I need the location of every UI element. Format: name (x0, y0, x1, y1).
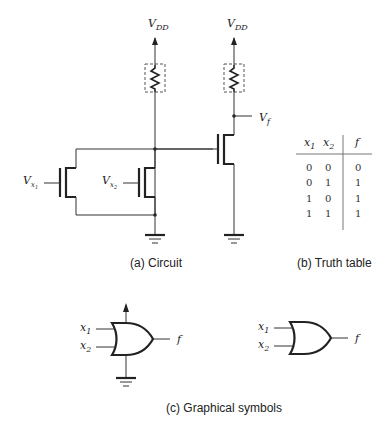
circuit: VDD VDD Vf (23, 17, 272, 270)
svg-text:0: 0 (355, 162, 361, 173)
svg-text:1: 1 (355, 208, 361, 219)
header-x2: x2 (323, 136, 334, 151)
arrow-up-icon (123, 303, 129, 312)
ground-icon (116, 378, 136, 386)
figure: VDD VDD Vf (0, 0, 388, 430)
vdd-left-label: VDD (148, 17, 169, 32)
vdd-right-label: VDD (227, 17, 248, 32)
svg-text:1: 1 (355, 177, 361, 188)
table-row: 1 0 1 (306, 193, 361, 204)
transistor-output (155, 134, 244, 243)
output-vf-label: Vf (259, 111, 272, 126)
svg-text:1: 1 (325, 177, 331, 188)
or-gate-with-power: x1 x2 f (80, 303, 183, 386)
ground-icon (145, 235, 165, 243)
table-row: 0 0 0 (306, 162, 361, 173)
svg-text:0: 0 (306, 162, 312, 173)
gate2-output-f: f (354, 332, 361, 345)
header-f: f (354, 136, 361, 149)
input-vx1-label: Vx1 (23, 174, 38, 190)
gate2-input-x2: x2 (258, 338, 269, 353)
svg-text:0: 0 (306, 177, 312, 188)
svg-text:0: 0 (325, 162, 331, 173)
resistor-icon (230, 65, 238, 92)
or-gate-icon (290, 322, 331, 354)
vdd-right: VDD Vf (224, 17, 272, 135)
ground-icon (224, 235, 244, 243)
caption-circuit: (a) Circuit (130, 256, 183, 270)
gate2-input-x1: x1 (258, 320, 269, 335)
vdd-left: VDD (145, 17, 169, 215)
truth-table: x1 x2 f 0 0 0 0 1 1 1 0 1 1 1 1 (b) Trut… (296, 135, 372, 270)
transistor-x2: Vx2 (102, 149, 155, 215)
svg-text:1: 1 (306, 208, 312, 219)
diagram-canvas: VDD VDD Vf (0, 0, 388, 430)
gate1-input-x2: x2 (80, 339, 91, 354)
svg-text:1: 1 (355, 193, 361, 204)
svg-text:1: 1 (306, 193, 312, 204)
caption-symbols: (c) Graphical symbols (166, 401, 282, 415)
header-x1: x1 (304, 136, 315, 151)
or-gate: x1 x2 f (258, 320, 361, 354)
input-vx2-label: Vx2 (102, 174, 117, 190)
gate1-input-x1: x1 (80, 321, 91, 336)
arrow-up-icon (152, 37, 158, 45)
svg-text:1: 1 (325, 208, 331, 219)
svg-text:0: 0 (325, 193, 331, 204)
or-gate-icon (112, 323, 153, 355)
caption-truth-table: (b) Truth table (297, 256, 372, 270)
table-row: 1 1 1 (306, 208, 361, 219)
table-row: 0 1 1 (306, 177, 361, 188)
resistor-icon (151, 65, 159, 92)
transistor-x1: Vx1 (23, 149, 76, 215)
gate1-output-f: f (176, 333, 183, 346)
arrow-up-icon (231, 37, 237, 45)
